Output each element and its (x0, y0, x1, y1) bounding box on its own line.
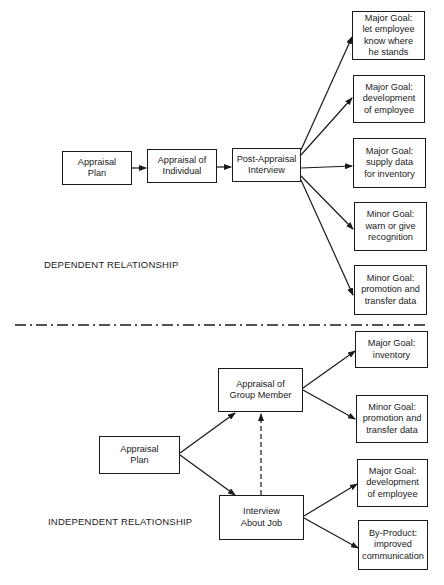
box-line: Interview (241, 506, 282, 518)
box-line: development (366, 477, 419, 489)
ind-goal-box-1: Major Goal:inventory (355, 331, 428, 368)
box-line: Appraisal of (158, 155, 207, 167)
arrow-group-to-promotion (303, 390, 355, 419)
box-line: Major Goal: (366, 466, 419, 478)
box-line: Plan (120, 455, 158, 467)
box-line: of employee (363, 105, 416, 117)
box-line: Minor Goal: (361, 273, 420, 285)
ind-appraisal-group-member-box: Appraisal ofGroup Member (218, 368, 303, 412)
box-line: Appraisal (120, 444, 158, 456)
ind-goal-box-4: By-Product:improvedcommunication (358, 520, 428, 570)
box-line: promotion and (361, 284, 420, 296)
ind-goal-box-2: Minor Goal:promotion andtransfer data (356, 395, 428, 443)
arrow-post-to-goal-3 (301, 166, 352, 168)
box-line: By-Product: (362, 528, 424, 540)
box-line: know where (362, 36, 414, 48)
box-line: Minor Goal: (365, 209, 415, 221)
box-line: promotion and (363, 413, 422, 425)
box-line: Individual (158, 166, 207, 178)
box-line: let employee (362, 24, 414, 36)
box-line: transfer data (363, 425, 422, 437)
box-line: communication (362, 551, 424, 563)
box-line: Minor Goal: (363, 402, 422, 414)
box-line: Major Goal: (363, 82, 416, 94)
box-line: About Job (241, 518, 282, 530)
box-line: Interview (237, 165, 297, 177)
box-line: he stands (362, 47, 414, 59)
box-line: Appraisal (78, 157, 116, 169)
dependent-relationship-label: DEPENDENT RELATIONSHIP (44, 259, 178, 270)
dep-goal-box-3: Major Goal:supply datafor inventory (353, 138, 426, 188)
dep-appraisal-individual-box: Appraisal ofIndividual (147, 149, 217, 183)
box-line: supply data (364, 157, 415, 169)
dep-post-appraisal-interview-box: Post-AppraisalInterview (232, 148, 301, 182)
dep-goal-box-5: Minor Goal:promotion andtransfer data (354, 265, 427, 315)
independent-relationship-label: INDEPENDENT RELATIONSHIP (48, 516, 192, 527)
box-line: of employee (366, 489, 419, 501)
box-line: improved (362, 539, 424, 551)
dep-goal-box-4: Minor Goal:warn or giverecognition (354, 202, 427, 251)
box-line: Post-Appraisal (237, 154, 297, 166)
dep-goal-box-2: Major Goal:developmentof employee (353, 75, 425, 123)
arrow-interview-to-development (304, 484, 357, 516)
box-line: Major Goal: (364, 146, 415, 158)
box-line: Major Goal: (362, 13, 414, 25)
box-line: warn or give (365, 221, 415, 233)
arrow-post-to-goal-5 (301, 180, 353, 295)
arrow-group-to-inventory (303, 351, 355, 388)
box-line: development (363, 93, 416, 105)
arrow-interview-to-byproduct (304, 518, 358, 548)
ind-interview-about-job-box: InterviewAbout Job (219, 495, 304, 540)
ind-appraisal-plan-box: AppraisalPlan (99, 436, 180, 474)
arrow-post-to-goal-1 (301, 37, 352, 150)
arrow-post-to-goal-4 (301, 176, 353, 229)
box-line: Group Member (230, 390, 292, 402)
box-line: inventory (368, 350, 416, 362)
dep-goal-box-1: Major Goal:let employeeknow wherehe stan… (352, 11, 425, 60)
box-line: for inventory (364, 169, 415, 181)
arrow-plan-to-interview (180, 455, 235, 495)
ind-goal-box-3: Major Goal:developmentof employee (357, 459, 428, 507)
box-line: transfer data (361, 296, 420, 308)
box-line: Plan (78, 168, 116, 180)
box-line: Major Goal: (368, 338, 416, 350)
dep-appraisal-plan-box: AppraisalPlan (62, 151, 132, 185)
arrow-post-to-goal-2 (301, 98, 352, 155)
box-line: recognition (365, 232, 415, 244)
arrow-plan-to-group-member (180, 413, 235, 453)
box-line: Appraisal of (230, 379, 292, 391)
